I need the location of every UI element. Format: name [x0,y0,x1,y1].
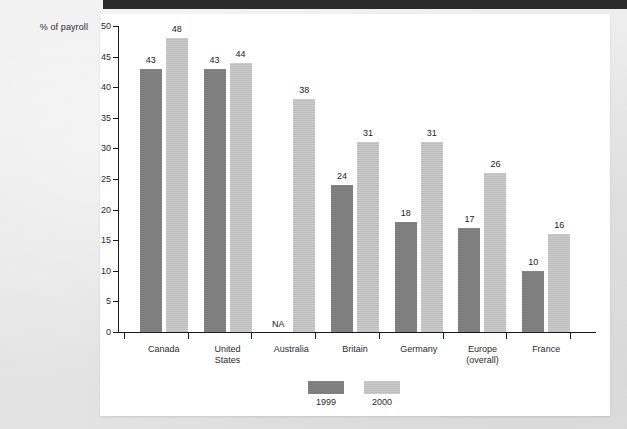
chart-legend: 19992000 [308,381,412,415]
y-axis-tick [113,210,119,211]
y-axis-tick [113,148,119,149]
bar-value-label: 10 [514,258,552,267]
x-axis-tick [188,333,189,339]
y-axis-tick-label: 30 [85,144,111,153]
bar-value-label: 44 [222,50,260,59]
bar-2000-britain[interactable] [357,142,379,332]
y-axis-tick [113,240,119,241]
bar-1999-united-states[interactable] [204,69,226,332]
legend-swatch-2000 [364,381,400,394]
y-axis-tick-label: 25 [85,175,111,184]
x-axis-label-united: United States [196,344,260,366]
bar-2000-germany[interactable] [421,142,443,332]
x-axis-tick [506,333,507,339]
y-axis-tick [113,179,119,180]
legend-label-1999: 1999 [308,398,344,407]
bar-2000-europe-overall[interactable] [484,173,506,332]
bar-2000-canada[interactable] [166,38,188,332]
bar-na-annotation: NA [261,320,295,329]
y-axis-tick-label: 20 [85,206,111,215]
y-axis-tick [113,57,119,58]
plot-area: 05101520253035404550 43484344NA382431183… [118,26,596,332]
y-axis-tick [113,301,119,302]
y-axis-tick [113,118,119,119]
bar-2000-australia[interactable] [293,99,315,332]
bar-1999-germany[interactable] [395,222,417,332]
x-axis-label-australia: Australia [259,344,323,355]
x-axis-label-britain: Britain [323,344,387,355]
bar-value-label: 26 [476,160,514,169]
bar-value-label: 24 [323,172,361,181]
y-axis-tick-label: 45 [85,53,111,62]
y-axis-tick-label: 5 [85,297,111,306]
bar-1999-britain[interactable] [331,185,353,332]
bar-2000-united-states[interactable] [230,63,252,332]
y-axis-tick [113,26,119,27]
x-axis-tick [379,333,380,339]
y-axis-tick-label: 10 [85,267,111,276]
y-axis-tick-label: 50 [85,22,111,31]
x-axis-tick [443,333,444,339]
y-axis-tick-label: 15 [85,236,111,245]
legend-swatch-1999 [308,381,344,394]
y-axis-tick-label: 40 [85,83,111,92]
x-axis-label-germany: Germany [387,344,451,355]
x-axis-tick [124,333,125,339]
bar-1999-canada[interactable] [140,69,162,332]
x-axis-tick [251,333,252,339]
legend-label-2000: 2000 [364,398,400,407]
bar-value-label: 31 [413,129,451,138]
x-axis-label-europe: Europe (overall) [451,344,515,366]
x-axis-label-canada: Canada [132,344,196,355]
top-rule-divider [103,0,627,9]
y-axis-tick [113,271,119,272]
bar-value-label: 43 [132,56,170,65]
bar-value-label: 17 [450,215,488,224]
y-axis-tick [113,87,119,88]
y-axis-tick-label: 0 [85,328,111,337]
bar-value-label: 16 [540,221,578,230]
bar-value-label: 48 [158,25,196,34]
x-axis-tick [315,333,316,339]
bar-value-label: 38 [285,86,323,95]
y-axis-tick [113,332,119,333]
y-axis-title: % of payroll [14,22,88,33]
legend-item-1999[interactable]: 1999 [308,381,344,407]
bar-1999-france[interactable] [522,271,544,332]
bar-1999-europe-overall[interactable] [458,228,480,332]
x-axis-tick [570,333,571,339]
bar-value-label: 31 [349,129,387,138]
x-axis-line [118,332,596,333]
x-axis-label-france: France [514,344,578,355]
y-axis-tick-label: 35 [85,114,111,123]
legend-item-2000[interactable]: 2000 [364,381,400,407]
bar-value-label: 18 [387,209,425,218]
bar-2000-france[interactable] [548,234,570,332]
